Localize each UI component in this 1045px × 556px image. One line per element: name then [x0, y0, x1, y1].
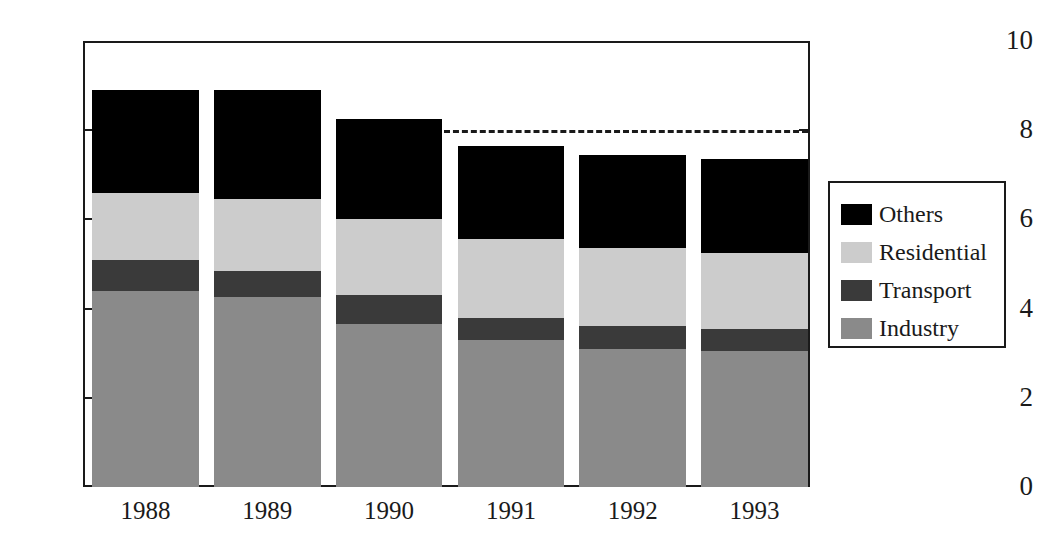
- bar-segment-transport-1989[interactable]: [214, 271, 321, 298]
- bar-segment-residential-1990[interactable]: [336, 219, 443, 295]
- bar-group-1988[interactable]: [92, 90, 199, 487]
- bar-segment-transport-1991[interactable]: [458, 318, 565, 340]
- legend-swatch-residential: [841, 242, 872, 263]
- bar-group-1990[interactable]: [336, 119, 443, 487]
- bar-segment-others-1989[interactable]: [214, 90, 321, 199]
- bar-segment-industry-1988[interactable]: [92, 291, 199, 487]
- legend-label-industry: Industry: [879, 316, 959, 340]
- x-tick-label-1989: 1989: [214, 498, 321, 523]
- legend-label-others: Others: [879, 202, 943, 226]
- bar-segment-residential-1993[interactable]: [701, 253, 808, 329]
- bar-group-1992[interactable]: [579, 155, 686, 487]
- bar-segment-transport-1990[interactable]: [336, 295, 443, 324]
- bar-segment-industry-1993[interactable]: [701, 351, 808, 487]
- bar-segment-transport-1988[interactable]: [92, 260, 199, 291]
- target-reference-line: [444, 130, 809, 133]
- legend-item-others[interactable]: Others: [841, 196, 1004, 232]
- bar-group-1989[interactable]: [214, 90, 321, 487]
- x-tick-label-1990: 1990: [336, 498, 443, 523]
- bar-segment-residential-1991[interactable]: [458, 239, 565, 317]
- bar-segment-industry-1989[interactable]: [214, 297, 321, 487]
- bar-segment-others-1993[interactable]: [701, 159, 808, 253]
- bar-segment-residential-1989[interactable]: [214, 199, 321, 270]
- legend-swatch-others: [841, 204, 872, 225]
- x-tick-label-1993: 1993: [701, 498, 808, 523]
- x-tick-label-1992: 1992: [579, 498, 686, 523]
- legend-item-industry[interactable]: Industry: [841, 310, 1004, 346]
- bar-segment-residential-1992[interactable]: [579, 248, 686, 326]
- stacked-bar-chart: 1086420 198819891990199119921993 Others …: [0, 0, 1045, 556]
- bar-group-1991[interactable]: [458, 146, 565, 487]
- bar-segment-others-1990[interactable]: [336, 119, 443, 219]
- bar-segment-others-1988[interactable]: [92, 90, 199, 193]
- bar-segment-transport-1992[interactable]: [579, 326, 686, 348]
- bar-segment-others-1991[interactable]: [458, 146, 565, 240]
- bar-segment-industry-1991[interactable]: [458, 340, 565, 487]
- bar-segment-industry-1992[interactable]: [579, 349, 686, 487]
- legend-item-residential[interactable]: Residential: [841, 234, 1004, 270]
- bar-segment-industry-1990[interactable]: [336, 324, 443, 487]
- legend-swatch-industry: [841, 318, 872, 339]
- bar-segment-transport-1993[interactable]: [701, 329, 808, 351]
- bar-segment-residential-1988[interactable]: [92, 193, 199, 260]
- bar-group-1993[interactable]: [701, 159, 808, 487]
- legend-label-transport: Transport: [879, 278, 971, 302]
- legend-label-residential: Residential: [879, 240, 987, 264]
- bar-segment-others-1992[interactable]: [579, 155, 686, 249]
- legend-item-transport[interactable]: Transport: [841, 272, 1004, 308]
- x-tick-label-1991: 1991: [458, 498, 565, 523]
- legend-swatch-transport: [841, 280, 872, 301]
- legend: Others Residential Transport Industry: [828, 181, 1006, 348]
- x-tick-label-1988: 1988: [92, 498, 199, 523]
